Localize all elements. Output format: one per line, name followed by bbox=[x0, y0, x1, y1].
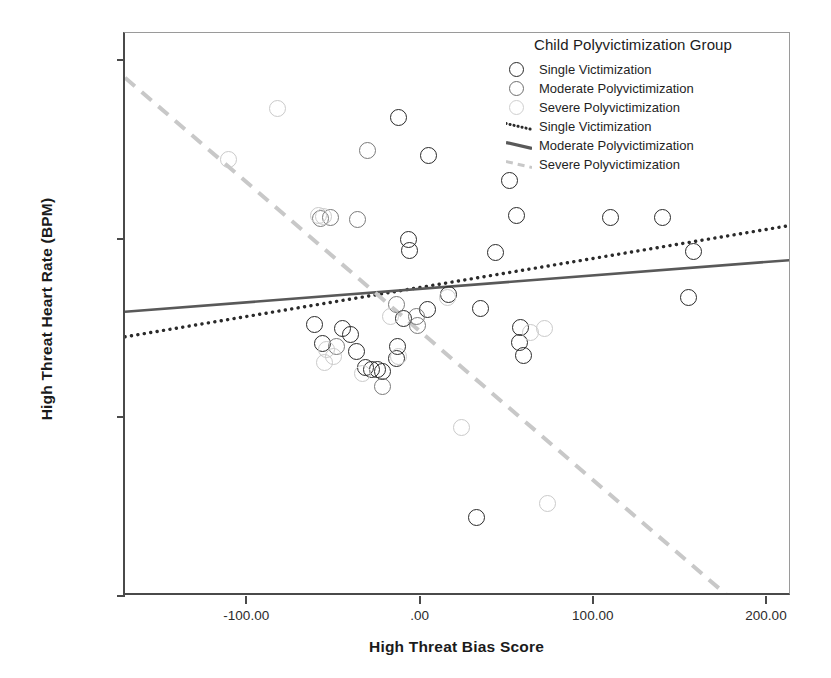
scatter-point bbox=[508, 207, 525, 224]
y-axis-title: High Threat Heart Rate (BPM) bbox=[38, 144, 56, 474]
x-tick-mark bbox=[419, 596, 421, 604]
x-axis-title: High Threat Bias Score bbox=[123, 638, 790, 656]
legend-label: Moderate Polyvictimization bbox=[539, 137, 694, 154]
legend-label: Single Victimization bbox=[539, 118, 651, 135]
legend-label: Moderate Polyvictimization bbox=[539, 80, 694, 97]
scatter-point bbox=[602, 209, 619, 226]
scatter-point bbox=[220, 151, 237, 168]
scatter-point bbox=[306, 316, 323, 333]
x-tick-label: .00 bbox=[350, 608, 490, 623]
x-tick-mark bbox=[592, 596, 594, 604]
legend-circle-icon bbox=[506, 99, 532, 116]
y-tick-mark bbox=[117, 595, 125, 597]
scatter-point bbox=[420, 147, 437, 164]
x-tick-label: 100.00 bbox=[523, 608, 663, 623]
x-tick-mark bbox=[245, 596, 247, 604]
scatter-point bbox=[453, 419, 470, 436]
scatter-point bbox=[354, 365, 371, 382]
y-tick-mark bbox=[117, 416, 125, 418]
legend: Child Polyvictimization Group Single Vic… bbox=[474, 36, 792, 174]
scatter-point bbox=[390, 109, 407, 126]
x-tick-label: 200.00 bbox=[696, 608, 831, 623]
scatter-point bbox=[539, 495, 556, 512]
scatter-point bbox=[501, 172, 518, 189]
x-tick-mark bbox=[765, 596, 767, 604]
legend-marker-entry: Moderate Polyvictimization bbox=[474, 79, 792, 98]
scatter-point bbox=[439, 289, 456, 306]
scatter-point bbox=[348, 343, 365, 360]
legend-entries: Single VictimizationModerate Polyvictimi… bbox=[474, 60, 792, 174]
scatter-point bbox=[315, 208, 332, 225]
scatter-point bbox=[654, 209, 671, 226]
x-tick-label: -100.00 bbox=[176, 608, 316, 623]
fit-line bbox=[125, 225, 789, 337]
legend-line-icon bbox=[506, 118, 532, 135]
scatter-point bbox=[515, 347, 532, 364]
legend-label: Single Victimization bbox=[539, 61, 651, 78]
legend-line-entry: Severe Polyvictimization bbox=[474, 155, 792, 174]
scatter-point bbox=[522, 324, 539, 341]
legend-line-entry: Moderate Polyvictimization bbox=[474, 136, 792, 155]
legend-title: Child Polyvictimization Group bbox=[474, 36, 792, 53]
scatter-point bbox=[342, 326, 359, 343]
scatter-point bbox=[401, 242, 418, 259]
legend-marker-entry: Severe Polyvictimization bbox=[474, 98, 792, 117]
legend-circle-icon bbox=[506, 80, 532, 97]
legend-line-icon bbox=[506, 156, 532, 173]
scatter-plot-figure: High Threat Heart Rate (BPM) High Threat… bbox=[0, 0, 831, 678]
scatter-point bbox=[680, 289, 697, 306]
legend-label: Severe Polyvictimization bbox=[539, 99, 680, 116]
scatter-point bbox=[472, 300, 489, 317]
scatter-point bbox=[349, 211, 366, 228]
legend-line-icon bbox=[506, 137, 532, 154]
legend-label: Severe Polyvictimization bbox=[539, 156, 680, 173]
scatter-point bbox=[468, 509, 485, 526]
scatter-point bbox=[408, 308, 425, 325]
y-tick-mark bbox=[117, 238, 125, 240]
y-tick-mark bbox=[117, 59, 125, 61]
legend-circle-icon bbox=[506, 61, 532, 78]
legend-line-entry: Single Victimization bbox=[474, 117, 792, 136]
legend-marker-entry: Single Victimization bbox=[474, 60, 792, 79]
